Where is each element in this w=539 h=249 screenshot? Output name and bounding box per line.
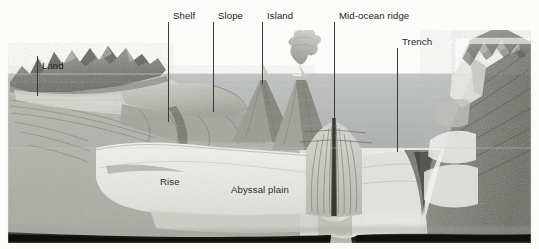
leader-line-trench bbox=[397, 48, 398, 152]
leader-line-island bbox=[262, 22, 263, 84]
callout-label-land: Land bbox=[42, 60, 64, 71]
cross-section-illustration bbox=[0, 0, 539, 249]
callout-label-slope: Slope bbox=[218, 10, 243, 21]
inline-label-rise: Rise bbox=[160, 176, 180, 187]
callout-label-island: Island bbox=[267, 10, 293, 21]
inline-label-abyssal-plain: Abyssal plain bbox=[231, 184, 289, 195]
callout-label-trench: Trench bbox=[402, 36, 432, 47]
leader-line-land bbox=[37, 56, 38, 96]
callout-label-mid-ocean-ridge: Mid-ocean ridge bbox=[339, 10, 409, 21]
leader-line-mid-ocean-ridge bbox=[334, 22, 335, 134]
leader-line-slope bbox=[213, 22, 214, 112]
diagram-canvas: Land Shelf Slope Island Mid-ocean ridge … bbox=[0, 0, 539, 249]
callout-label-shelf: Shelf bbox=[173, 10, 195, 21]
leader-line-shelf bbox=[168, 22, 169, 122]
